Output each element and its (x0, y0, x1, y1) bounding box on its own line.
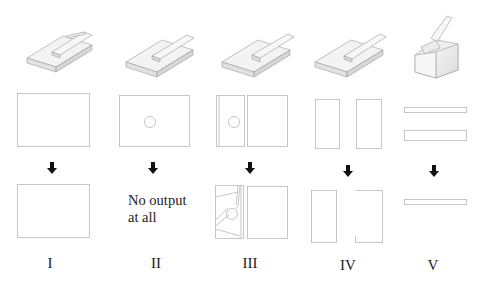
input-rect-IV-right (357, 100, 382, 149)
model-3d-V (415, 16, 458, 78)
output-open-rect-IV-right (356, 191, 383, 243)
down-arrow-icons (47, 162, 439, 177)
down-arrow-icon-II (148, 162, 158, 174)
output-hole-III (227, 209, 238, 220)
column-label-V: V (413, 257, 453, 274)
model-3d-I (27, 32, 92, 72)
column-label-III: III (230, 255, 270, 272)
output-strip-V (405, 200, 467, 205)
no-output-note-line1: No output (128, 192, 186, 209)
column-label-I: I (30, 255, 70, 272)
input-rect-IV-left (316, 100, 340, 149)
input-rect-III-left (217, 96, 245, 147)
output-rect-I (18, 185, 90, 238)
no-output-note-line2: at all (128, 209, 186, 226)
input-strip-V-bottom (405, 131, 467, 141)
input-strip-V-top (405, 108, 467, 113)
no-output-note: No output at all (128, 192, 186, 226)
model-3d-II (126, 35, 194, 77)
diagram-canvas (0, 0, 482, 284)
column-label-IV: IV (328, 257, 368, 274)
output-rect-III-right (248, 187, 288, 239)
input-rect-I (18, 94, 90, 147)
model-3d-IV (315, 34, 386, 77)
model-3d-III (222, 34, 294, 77)
input-hole-III (229, 117, 240, 128)
input-rect-II (120, 96, 190, 147)
down-arrow-icon-I (47, 162, 57, 174)
down-arrow-icon-IV (343, 165, 353, 177)
column-label-II: II (136, 255, 176, 272)
input-hole-II (145, 117, 156, 128)
output-rect-IV-left (312, 191, 337, 243)
down-arrow-icon-III (245, 162, 255, 174)
input-rect-III-right (248, 96, 288, 147)
down-arrow-icon-V (429, 165, 439, 177)
